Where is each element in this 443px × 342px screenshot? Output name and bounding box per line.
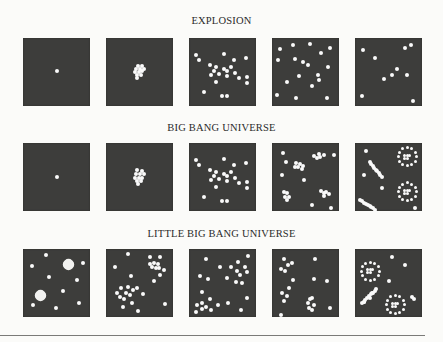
panel-explosion-3 [189,38,256,106]
star-dot [390,255,394,259]
star-dot [239,308,243,312]
star-dot [310,84,314,88]
star-dot [409,43,413,47]
star-dot [194,53,198,57]
star-dot [122,297,126,301]
spiral-galaxy-dot [378,270,381,273]
spiral-galaxy-dot [369,261,372,264]
spiral-galaxy-dot [397,155,400,158]
star-dot [329,206,333,210]
spiral-galaxy-dot [406,164,409,167]
star-dot [194,310,198,314]
star-dot [313,257,317,261]
spiral-galaxy-dot [360,270,363,273]
star-dot [139,73,143,77]
star-dot [328,306,332,310]
star-dot [157,266,161,270]
star-dot [61,289,65,293]
star-dot [136,309,140,313]
spiral-galaxy-dot [398,151,401,154]
star-dot [229,65,233,69]
galaxy-cluster [33,288,49,304]
star-dot [403,263,407,267]
star-dot [285,198,289,202]
spiral-galaxy-dot [394,312,397,315]
star-dot [222,52,226,56]
star-dot [300,167,304,171]
star-dot [380,186,384,190]
spiral-galaxy-dot [410,147,413,150]
star-dot [284,160,288,164]
star-dot [204,257,208,261]
star-dot [55,175,59,179]
star-dot [206,277,210,281]
star-dot [115,291,119,295]
spiral-galaxy-dot [414,160,417,163]
panel-big-bang-4 [272,143,339,211]
star-dot [362,173,366,177]
star-dot [225,174,229,178]
galaxy-cluster [61,257,77,273]
spiral-galaxy-dot [403,303,406,306]
star-dot [225,199,229,203]
star-dot [327,192,331,196]
star-dot [306,301,310,305]
star-dot [325,96,329,100]
star-dot [234,280,238,284]
star-dot [310,296,314,300]
spiral-galaxy-dot [364,278,367,281]
star-dot [197,58,201,62]
star-dot [361,48,365,52]
star-dot [225,179,229,183]
star-dot [316,73,320,77]
star-dot [405,73,409,77]
spiral-galaxy-dot [402,299,405,302]
panel-little-big-bang-2 [106,249,173,317]
star-dot [283,269,287,273]
star-dot [30,264,34,268]
star-dot [317,152,321,156]
star-dot [200,290,204,294]
star-dot [237,76,241,80]
star-dot [245,75,249,79]
star-dot [220,199,224,203]
star-dot [77,301,81,305]
star-dot [126,285,130,289]
star-dot [131,288,135,292]
star-dot [162,268,166,272]
spiral-galaxy-dot [373,278,376,281]
spiral-galaxy-dot [397,190,400,193]
star-dot [229,170,233,174]
spiral-galaxy-dot [414,151,417,154]
panel-big-bang-1 [23,143,90,211]
star-dot [390,73,394,77]
star-dot [129,274,133,278]
star-dot [326,65,330,69]
star-dot [387,279,391,283]
star-dot [312,303,316,307]
star-dot [208,63,212,67]
star-dot [135,286,139,290]
star-dot [319,51,323,55]
star-dot [413,206,417,210]
star-dot [282,299,286,303]
panel-big-bang-3 [189,143,256,211]
star-dot [232,163,236,167]
spiral-galaxy-dot [406,199,409,202]
spiral-galaxy-core [406,157,409,160]
galaxy-stream-dot [374,287,378,291]
spiral-galaxy-dot [364,262,367,265]
spiral-galaxy-dot [415,190,418,193]
star-dot [197,163,201,167]
star-dot [233,71,237,75]
spiral-galaxy-core [394,305,397,308]
panel-big-bang-5 [355,143,422,211]
star-dot [285,80,289,84]
spiral-galaxy-core [408,154,411,157]
spiral-galaxy-core [396,302,399,305]
spiral-galaxy-dot [406,146,409,149]
star-dot [293,57,297,61]
star-dot [325,279,329,283]
star-dot [282,257,286,261]
star-dot [121,305,125,309]
